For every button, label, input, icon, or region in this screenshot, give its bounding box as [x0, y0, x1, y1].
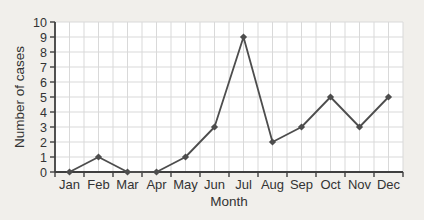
line-chart-figure: 012345678910JanFebMarAprMayJunJulAugSepO…	[0, 0, 424, 220]
y-tick-label: 4	[40, 106, 47, 120]
y-tick-label: 10	[33, 16, 47, 30]
x-tick-label: May	[173, 177, 198, 192]
y-tick-label: 8	[40, 46, 47, 60]
y-tick-label: 0	[40, 166, 47, 180]
x-tick-label: Jan	[59, 177, 80, 192]
y-tick-label: 2	[40, 136, 47, 150]
x-tick-label: Mar	[116, 177, 139, 192]
x-tick-label: Apr	[146, 177, 167, 192]
x-tick-label: Oct	[320, 177, 341, 192]
x-tick-label: Aug	[261, 177, 284, 192]
y-tick-label: 1	[40, 151, 47, 165]
x-tick-label: Feb	[87, 177, 109, 192]
y-tick-label: 7	[40, 61, 47, 75]
y-tick-label: 3	[40, 121, 47, 135]
x-tick-label: Sep	[290, 177, 313, 192]
x-tick-label: Jun	[204, 177, 225, 192]
x-tick-label: Dec	[377, 177, 401, 192]
y-tick-label: 5	[40, 91, 47, 105]
x-tick-label: Jul	[235, 177, 252, 192]
chart-canvas: 012345678910JanFebMarAprMayJunJulAugSepO…	[0, 0, 424, 220]
y-tick-label: 9	[40, 31, 47, 45]
y-tick-label: 6	[40, 76, 47, 90]
x-tick-label: Nov	[348, 177, 372, 192]
